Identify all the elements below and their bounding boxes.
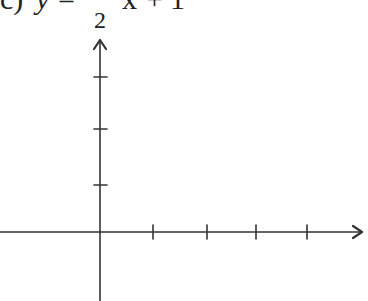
coordinate-plane — [0, 0, 368, 301]
